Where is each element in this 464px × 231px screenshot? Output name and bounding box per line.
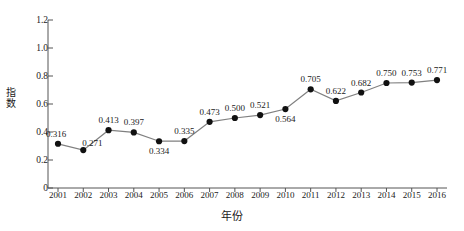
data-point [333,98,339,104]
x-tick-label: 2004 [125,190,143,200]
data-point-label: 0.521 [250,100,270,110]
x-tick-label: 2016 [428,190,446,200]
x-tick-label: 2003 [100,190,118,200]
data-point-label: 0.564 [275,114,295,124]
data-point-label: 0.397 [124,117,144,127]
x-tick-label: 2012 [327,190,345,200]
y-axis-ticks [48,20,53,188]
x-tick-label: 2011 [302,190,320,200]
data-point [383,80,389,86]
data-point-label: 0.500 [225,103,245,113]
data-point-label: 0.473 [199,107,219,117]
data-point [181,138,187,144]
data-point [257,112,263,118]
x-axis-title: 年份 [0,207,464,223]
data-point [282,106,288,112]
data-point-label: 0.334 [149,146,169,156]
data-point [409,79,415,85]
x-tick-label: 2005 [150,190,168,200]
axis-lines [48,20,447,188]
data-point-label: 0.335 [174,126,194,136]
data-point [207,119,213,125]
data-point-label: 0.316 [46,129,66,139]
line-chart: 指数 0 0.2 0.4 0.6 0.8 1.0 1.2 20012002200… [0,0,464,231]
data-point-label: 0.622 [326,86,346,96]
x-tick-label: 2007 [201,190,219,200]
data-point-label: 0.682 [351,78,371,88]
x-tick-label: 2001 [49,190,67,200]
x-tick-label: 2006 [175,190,193,200]
x-tick-label: 2008 [226,190,244,200]
x-tick-label: 2009 [251,190,269,200]
x-tick-label: 2014 [377,190,395,200]
data-point-label: 0.750 [376,68,396,78]
data-point [232,115,238,121]
data-point [156,138,162,144]
x-tick-label: 2010 [276,190,294,200]
data-point [131,129,137,135]
data-point-label: 0.705 [301,74,321,84]
x-tick-label: 2002 [74,190,92,200]
data-point-label: 0.271 [82,138,102,148]
data-point [358,89,364,95]
data-point-label: 0.413 [98,115,118,125]
x-tick-label: 2013 [352,190,370,200]
x-tick-label: 2015 [403,190,421,200]
data-point-label: 0.753 [402,68,422,78]
data-point [434,77,440,83]
data-point [55,141,61,147]
data-point [308,86,314,92]
data-point [105,127,111,133]
data-point-label: 0.771 [427,65,447,75]
